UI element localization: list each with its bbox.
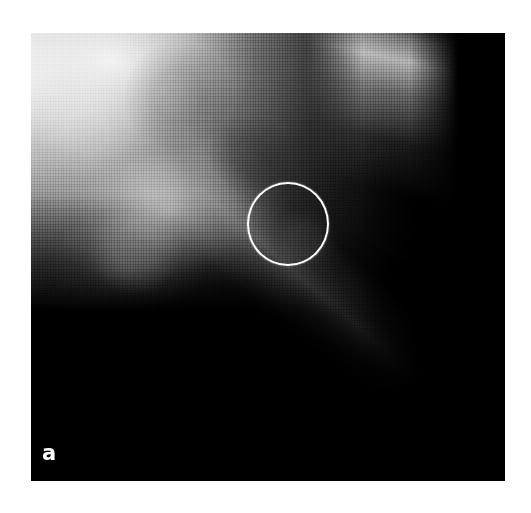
figure-root: a <box>0 0 531 513</box>
panel-label: a <box>42 443 56 464</box>
mammogram-image[interactable]: a <box>31 33 505 481</box>
lesion-marker-circle[interactable] <box>247 182 329 266</box>
